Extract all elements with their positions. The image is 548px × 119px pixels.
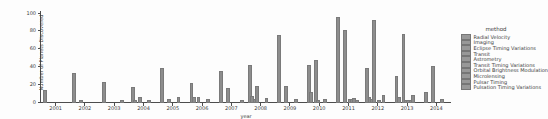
bar-radial-velocity-2009 (278, 36, 280, 102)
x-tick-label: 2014 (424, 106, 448, 111)
y-tick-label: 0 (22, 100, 36, 105)
y-axis-tick (38, 102, 41, 103)
bar-microlensing-2008 (266, 99, 268, 102)
bar-radial-velocity-2005 (161, 69, 163, 102)
bar-pulsar-timing-2003 (121, 101, 123, 102)
x-tick-label: 2001 (44, 106, 68, 111)
bar-radial-velocity-2012 (366, 69, 368, 102)
y-axis-tick (38, 48, 41, 49)
x-tick-label: 2003 (102, 106, 126, 111)
bar-radial-velocity-2014 (425, 93, 427, 102)
y-tick-label: 80 (22, 28, 36, 33)
legend-item: Pulsation Timing Variations (461, 84, 545, 90)
bar-pulsar-timing-2011 (356, 101, 358, 102)
bar-transit-2005 (168, 100, 170, 102)
bar-transit-2013 (403, 35, 405, 102)
x-tick-label: 2005 (161, 106, 185, 111)
bar-transit-timing-variations-2012 (378, 101, 380, 102)
legend: method Radial VelocityImagingEclipse Tim… (461, 26, 545, 90)
bar-transit-2007 (227, 89, 229, 102)
x-tick-label: 2008 (249, 106, 273, 111)
x-axis-label: year (41, 114, 451, 119)
bar-radial-velocity-2002 (73, 74, 75, 102)
x-tick-label: 2009 (278, 106, 302, 111)
bar-imaging-2006 (193, 98, 195, 102)
bar-radial-velocity-2004 (132, 88, 134, 102)
bar-radial-velocity-2007 (220, 72, 222, 102)
x-tick-label: 2006 (190, 106, 214, 111)
y-tick-label: 100 (22, 11, 36, 16)
bar-radial-velocity-2011 (337, 18, 339, 102)
y-tick-label: 40 (22, 64, 36, 69)
legend-swatch-icon (461, 84, 471, 90)
x-tick-label: 2012 (366, 106, 390, 111)
y-tick-label: 60 (22, 46, 36, 51)
bar-transit-2002 (80, 101, 82, 102)
plot-area: Number of Planets Discovered year 020406… (40, 11, 451, 103)
bar-imaging-2010 (310, 93, 312, 102)
bar-microlensing-2010 (324, 100, 326, 102)
bar-transit-2010 (315, 61, 317, 102)
bar-microlensing-2004 (148, 101, 150, 102)
x-tick-label: 2010 (307, 106, 331, 111)
bar-radial-velocity-2001 (44, 91, 46, 102)
y-axis-tick (38, 13, 41, 14)
bar-transit-2006 (198, 98, 200, 102)
bar-microlensing-2014 (441, 100, 443, 102)
legend-label: Pulsation Timing Variations (474, 84, 542, 90)
x-tick-label: 2007 (219, 106, 243, 111)
x-tick-label: 2013 (395, 106, 419, 111)
y-axis-label: Number of Planets Discovered (39, 27, 44, 91)
bar-microlensing-2012 (383, 96, 385, 102)
bar-microlensing-2013 (412, 96, 414, 102)
bar-radial-velocity-2003 (103, 83, 105, 102)
y-axis-tick (38, 30, 41, 31)
y-tick-label: 20 (22, 82, 36, 87)
bar-transit-2012 (373, 21, 375, 102)
bar-microlensing-2006 (207, 100, 209, 102)
bar-transit-2004 (139, 98, 141, 102)
bar-transit-2011 (344, 31, 346, 102)
bar-imaging-2013 (398, 98, 400, 102)
legend-items: Radial VelocityImagingEclipse Timing Var… (461, 34, 545, 90)
x-tick-label: 2002 (73, 106, 97, 111)
bar-transit-2014 (432, 67, 434, 102)
bar-transit-2008 (256, 87, 258, 102)
y-axis-tick (38, 84, 41, 85)
bar-pulsation-timing-variations-2007 (241, 101, 243, 102)
bar-microlensing-2009 (295, 100, 297, 102)
x-tick-label: 2004 (132, 106, 156, 111)
bar-astrometry-2010 (317, 101, 319, 102)
x-tick-label: 2011 (337, 106, 361, 111)
bar-microlensing-2005 (178, 98, 180, 102)
legend-title: method (461, 26, 531, 32)
bar-imaging-2004 (134, 101, 136, 102)
bar-transit-2009 (285, 87, 287, 102)
y-axis-tick (38, 66, 41, 67)
